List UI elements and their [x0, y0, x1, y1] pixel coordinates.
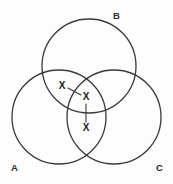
set-label-b: B [113, 10, 120, 21]
venn-diagram-svg: A B C X X X [0, 0, 173, 184]
set-label-a: A [11, 162, 18, 173]
venn-diagram-canvas: A B C X X X [0, 0, 173, 184]
set-label-c: C [156, 162, 163, 173]
x-marker-ac: X [83, 122, 90, 133]
x-marker-abc: X [83, 91, 90, 102]
x-marker-ab: X [59, 80, 66, 91]
leader-line-diagonal [68, 88, 81, 95]
set-circle-c [67, 70, 161, 164]
